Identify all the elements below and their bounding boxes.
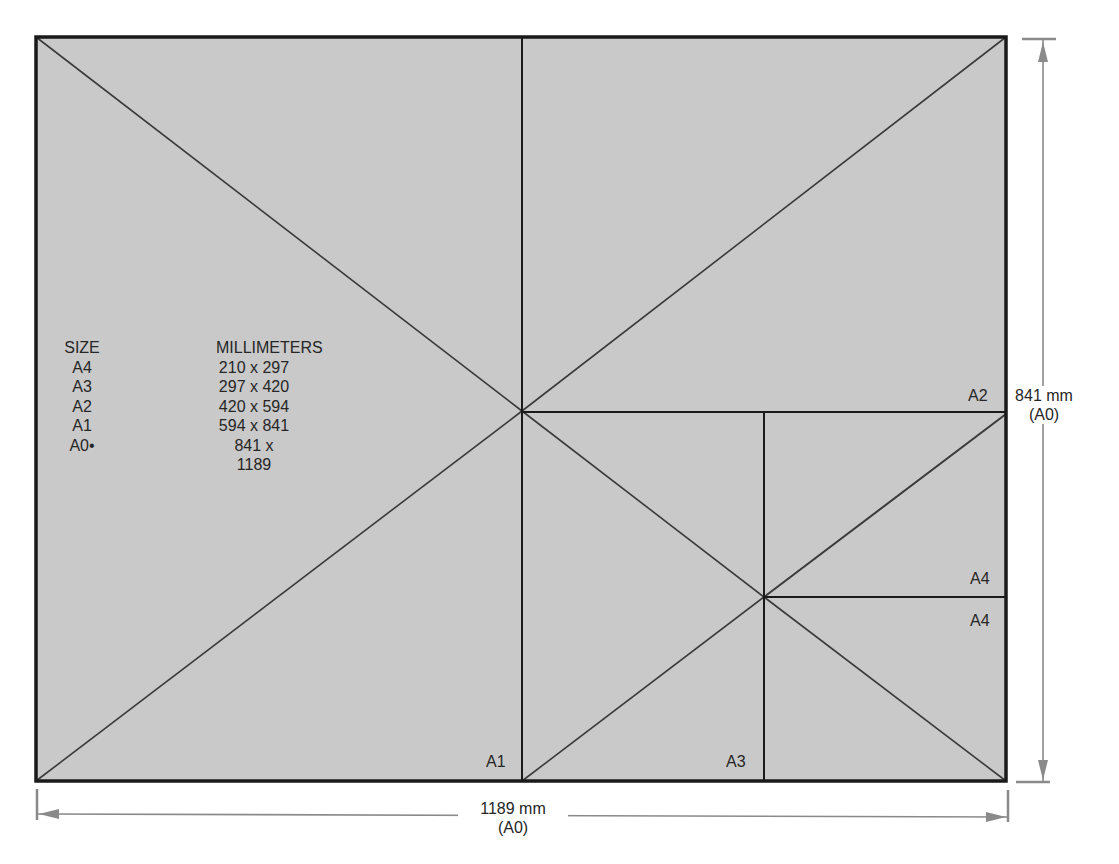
size-table-row: A0• 841 x 1189 [62, 436, 292, 456]
size-cell: A2 [62, 397, 102, 417]
width-dimension-label: 1189 mm (A0) [458, 799, 568, 837]
size-column-header: SIZE [62, 338, 102, 358]
region-label-a2: A2 [968, 387, 988, 405]
region-label-a1: A1 [486, 753, 506, 771]
millimeters-cell: 420 x 594 [102, 397, 292, 417]
size-table-row: A4 210 x 297 [62, 358, 292, 378]
size-table-row: A1 594 x 841 [62, 416, 292, 436]
width-note: (A0) [458, 818, 568, 837]
size-table-row: A2 420 x 594 [62, 397, 292, 417]
height-dimension-label: 841 mm (A0) [1014, 386, 1074, 424]
size-cell: A1 [62, 416, 102, 436]
region-label-a4-top: A4 [970, 570, 990, 588]
size-table-row: A3 297 x 420 [62, 377, 292, 397]
size-cell: A3 [62, 377, 102, 397]
millimeters-cell: 297 x 420 [102, 377, 292, 397]
size-table: SIZE MILLIMETERS A4 210 x 297 A3 297 x 4… [62, 338, 292, 455]
millimeters-column-header: MILLIMETERS [102, 338, 292, 358]
size-cell: A4 [62, 358, 102, 378]
millimeters-cell: 594 x 841 [102, 416, 292, 436]
millimeters-cell: 210 x 297 [102, 358, 292, 378]
size-cell: A0• [62, 436, 102, 456]
width-value: 1189 mm [458, 799, 568, 818]
size-table-header: SIZE MILLIMETERS [62, 338, 292, 358]
height-note: (A0) [1014, 405, 1074, 424]
region-label-a3: A3 [726, 753, 746, 771]
region-label-a4-bottom: A4 [970, 612, 990, 630]
millimeters-cell: 841 x 1189 [102, 436, 292, 456]
height-value: 841 mm [1014, 386, 1074, 405]
